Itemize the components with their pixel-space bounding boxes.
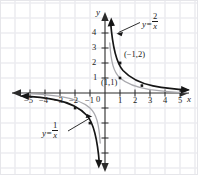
x-tick-label-neg5: −5: [24, 96, 33, 105]
graph-canvas: [0, 0, 198, 175]
x-tick-label-4: 4: [163, 96, 167, 105]
curve-label-2-over-x-denominator: x: [152, 21, 158, 31]
curve-label-1-over-x-denominator: x: [52, 130, 58, 140]
x-tick-label-neg3: −3: [54, 96, 63, 105]
x-tick-label-neg4: −4: [39, 96, 48, 105]
curve-label-1-over-x-fraction: 1x: [52, 121, 58, 140]
point-label-neg1-2: (−1,2): [124, 50, 145, 59]
x-tick-label-1: 1: [118, 96, 122, 105]
graph-figure: 4 3 2 1 0 −5 −4 −3 −2 −1 1 2 3 4 5 x y (…: [0, 0, 198, 175]
x-tick-label-5: 5: [178, 96, 182, 105]
y-tick-label-1: 1: [93, 73, 97, 82]
y-tick-label-2: 2: [92, 58, 96, 67]
x-tick-label-neg2: −2: [69, 96, 78, 105]
point-label-1-1: (1,1): [101, 78, 117, 87]
x-tick-label-2: 2: [133, 96, 137, 105]
x-tick-label-neg1: −1: [85, 96, 94, 105]
y-tick-label-3: 3: [92, 43, 96, 52]
y-tick-label-4: 4: [92, 28, 96, 37]
curve-label-1-over-x: y=1x: [42, 123, 58, 142]
curve-label-2-over-x-fraction: 2x: [152, 12, 158, 31]
y-axis-label: y: [96, 8, 100, 17]
origin-label: 0: [96, 95, 100, 104]
curve-label-2-over-x-numerator: 2: [152, 12, 158, 21]
marker-on-2x-at-neg2: [74, 107, 77, 110]
x-tick-label-3: 3: [148, 96, 152, 105]
curve-label-1-over-x-numerator: 1: [52, 121, 58, 130]
marker-on-2x-at-1: [119, 62, 122, 65]
marker-on-2x-at-neg1: [89, 122, 92, 125]
x-axis-label: x: [187, 95, 191, 104]
marker-on-1x-at-1: [119, 77, 122, 80]
curve-label-2-over-x: y=2x: [142, 14, 158, 33]
marker-on-2x-at-25: [141, 84, 144, 87]
